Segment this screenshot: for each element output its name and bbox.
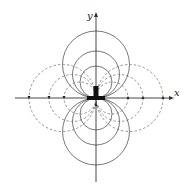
magnet bbox=[87, 86, 105, 100]
arrow-icon bbox=[162, 96, 165, 99]
arrow-icon bbox=[127, 96, 130, 99]
arrow-icon bbox=[48, 96, 51, 99]
arrow-icon bbox=[28, 96, 31, 99]
y-axis-label: y bbox=[86, 10, 93, 21]
arrow-icon bbox=[142, 96, 145, 99]
y-axis-arrow-icon bbox=[94, 12, 98, 17]
x-axis-label: x bbox=[174, 87, 180, 98]
magnet-horizontal-bar bbox=[87, 96, 105, 100]
arrow-icon bbox=[63, 96, 66, 99]
dipole-diagram: x y bbox=[0, 0, 186, 195]
